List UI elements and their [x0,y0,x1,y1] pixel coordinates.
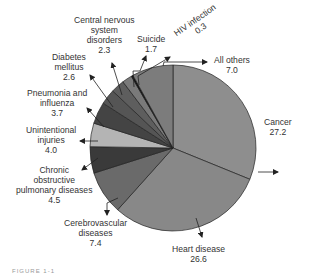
label-text-3: disorders [74,35,135,45]
label-value: 2.3 [74,45,135,55]
label-value: 7.0 [214,65,250,75]
pie-slices [90,65,256,231]
label-value: 27.2 [264,127,292,137]
label-suicide: Suicide 1.7 [137,34,165,54]
label-text: Suicide [137,34,165,44]
label-text: Pneumonia and [27,88,87,98]
figure-caption: FIGURE 1-1 [12,268,55,274]
label-unintentional-injuries: Unintentional injuries 4.0 [26,125,76,155]
label-value: 3.7 [27,108,87,118]
label-all-others: All others 7.0 [214,55,250,75]
label-text-2: diseases [64,228,127,238]
label-text: Chronic [16,165,92,175]
label-text: Heart disease [172,244,225,254]
label-pneumonia: Pneumonia and influenza 3.7 [27,88,87,118]
label-text: All others [214,55,250,65]
label-value: 4.5 [16,195,92,205]
label-text-2: influenza [27,98,87,108]
label-value: 7.4 [64,238,127,248]
label-heart-disease: Heart disease 26.6 [172,244,225,264]
label-value: 1.7 [137,44,165,54]
label-text: Cerebrovascular [64,218,127,228]
label-value: 26.6 [172,254,225,264]
label-cerebrovascular: Cerebrovascular diseases 7.4 [64,218,127,248]
label-text: Cancer [264,117,292,127]
label-text: Central nervous [74,15,135,25]
label-text-2: mellitus [52,62,86,72]
label-text: Unintentional [26,125,76,135]
label-value: 2.6 [52,72,86,82]
label-cns-disorders: Central nervous system disorders 2.3 [74,15,135,55]
label-text-2: obstructive [16,175,92,185]
label-text-3: pulmonary diseases [16,185,92,195]
label-text-2: system [74,25,135,35]
label-text-2: injuries [26,135,76,145]
label-value: 4.0 [26,145,76,155]
label-diabetes: Diabetes mellitus 2.6 [52,52,86,82]
label-cancer: Cancer 27.2 [264,117,292,137]
label-copd: Chronic obstructive pulmonary diseases 4… [16,165,92,205]
